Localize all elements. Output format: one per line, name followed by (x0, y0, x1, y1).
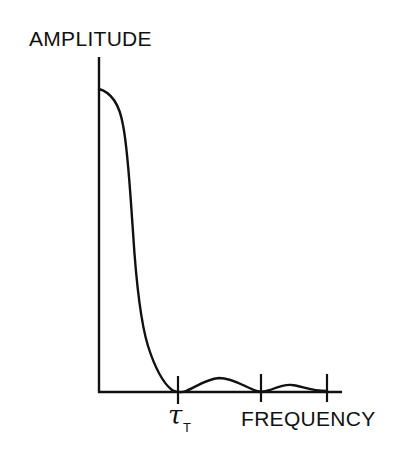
spectrum-diagram (0, 0, 396, 454)
y-axis-label: AMPLITUDE (29, 27, 152, 51)
tau-symbol: τ (168, 400, 183, 430)
spectrum-curve (99, 89, 327, 392)
tau-subscript: T (183, 420, 191, 435)
x-axis-label: FREQUENCY (241, 407, 376, 431)
